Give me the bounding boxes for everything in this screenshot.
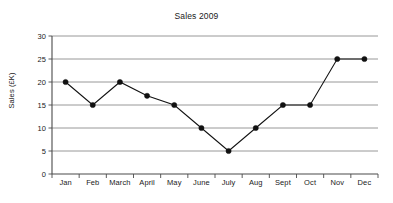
gridlines — [52, 36, 378, 151]
chart-container: Sales 2009 Sales (£K) 051015202530 JanFe… — [0, 0, 393, 203]
x-tick-label: Jan — [59, 178, 71, 187]
x-axis-tick-labels: JanFebMarchAprilMayJuneJulyAugSeptOctNov… — [59, 178, 371, 187]
data-point-marker — [172, 102, 177, 107]
data-point-marker — [280, 102, 285, 107]
data-point-marker — [335, 56, 340, 61]
data-point-marker — [226, 148, 231, 153]
x-tick-label: Oct — [304, 178, 317, 187]
x-tick-label: May — [167, 178, 182, 187]
y-tick-label: 10 — [37, 124, 46, 133]
data-point-marker — [307, 102, 312, 107]
x-tick-label: Feb — [86, 178, 99, 187]
y-tick-label: 20 — [37, 78, 46, 87]
data-point-marker — [253, 125, 258, 130]
data-point-marker — [199, 125, 204, 130]
y-tick-label: 30 — [37, 32, 46, 41]
y-tick-label: 5 — [42, 147, 46, 156]
axis-ticks — [49, 36, 379, 178]
x-tick-label: Dec — [358, 178, 372, 187]
data-point-marker — [362, 56, 367, 61]
x-tick-label: Aug — [249, 178, 263, 187]
data-point-marker — [144, 93, 149, 98]
x-tick-label: Sept — [275, 178, 292, 187]
x-tick-label: April — [139, 178, 155, 187]
data-point-marker — [117, 79, 122, 84]
x-tick-label: March — [109, 178, 130, 187]
y-tick-label: 25 — [37, 55, 46, 64]
x-tick-label: June — [193, 178, 210, 187]
data-point-marker — [63, 79, 68, 84]
plot-area: 051015202530 JanFebMarchAprilMayJuneJuly… — [0, 0, 393, 203]
y-axis-tick-labels: 051015202530 — [37, 32, 46, 179]
data-point-marker — [90, 102, 95, 107]
y-tick-label: 15 — [37, 101, 46, 110]
x-tick-label: July — [222, 178, 236, 187]
y-tick-label: 0 — [42, 170, 46, 179]
x-tick-label: Nov — [330, 178, 344, 187]
